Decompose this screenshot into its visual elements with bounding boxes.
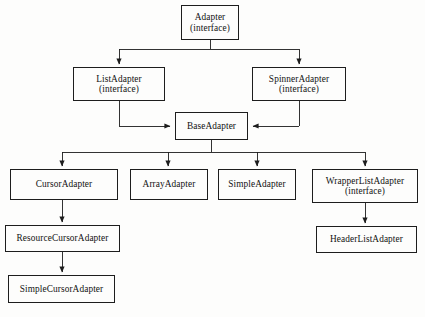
- node-base-adapter-name: BaseAdapter: [187, 121, 236, 131]
- node-wrapper-list-adapter-stereotype: (interface): [345, 186, 385, 196]
- node-wrapper-list-adapter[interactable]: WrapperListAdapter (interface): [312, 169, 418, 203]
- node-list-adapter[interactable]: ListAdapter (interface): [73, 67, 165, 101]
- node-cursor-adapter[interactable]: CursorAdapter: [10, 169, 118, 200]
- node-list-adapter-stereotype: (interface): [99, 84, 139, 94]
- node-resource-cursor-adapter[interactable]: ResourceCursorAdapter: [5, 225, 120, 252]
- node-array-adapter-name: ArrayAdapter: [143, 179, 196, 189]
- node-spinner-adapter[interactable]: SpinnerAdapter (interface): [252, 67, 346, 101]
- edge-spinner-adapter-to-base-adapter: [253, 101, 299, 126]
- class-hierarchy-diagram: Adapter (interface) ListAdapter (interfa…: [0, 0, 425, 317]
- connector-layer: [0, 0, 425, 317]
- node-simple-cursor-adapter[interactable]: SimpleCursorAdapter: [8, 275, 115, 303]
- node-simple-cursor-adapter-name: SimpleCursorAdapter: [20, 284, 104, 294]
- node-list-adapter-name: ListAdapter: [96, 74, 142, 84]
- node-spinner-adapter-name: SpinnerAdapter: [269, 74, 329, 84]
- node-base-adapter[interactable]: BaseAdapter: [175, 112, 248, 140]
- node-simple-adapter[interactable]: SimpleAdapter: [218, 169, 296, 200]
- node-header-list-adapter-name: HeaderListAdapter: [330, 234, 403, 244]
- edge-list-adapter-to-base-adapter: [119, 101, 170, 126]
- node-spinner-adapter-stereotype: (interface): [279, 84, 319, 94]
- node-cursor-adapter-name: CursorAdapter: [36, 179, 93, 189]
- node-wrapper-list-adapter-name: WrapperListAdapter: [326, 176, 404, 186]
- node-header-list-adapter[interactable]: HeaderListAdapter: [316, 226, 417, 253]
- node-simple-adapter-name: SimpleAdapter: [228, 179, 286, 189]
- node-adapter-name: Adapter: [195, 12, 226, 22]
- node-array-adapter[interactable]: ArrayAdapter: [130, 169, 208, 200]
- node-adapter[interactable]: Adapter (interface): [181, 5, 239, 40]
- node-adapter-stereotype: (interface): [190, 23, 230, 33]
- node-resource-cursor-adapter-name: ResourceCursorAdapter: [17, 233, 109, 243]
